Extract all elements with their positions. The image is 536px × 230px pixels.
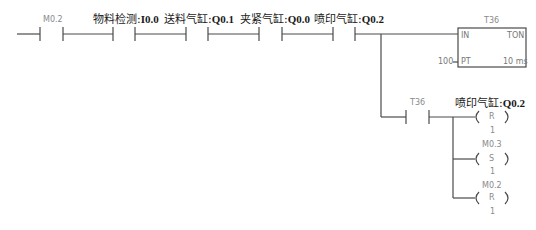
timer-type: TON — [507, 31, 524, 41]
coil-q02-left-paren — [476, 111, 479, 123]
coil-m03-address: M0.3 — [482, 140, 502, 150]
coil-m02-count: 1 — [490, 207, 495, 217]
contact-t36-address: T36 — [410, 98, 425, 108]
contact-q00-label: 夹紧气缸:Q0.0 — [240, 13, 310, 26]
timer-address: T36 — [484, 16, 499, 26]
contact-m02-address: M0.2 — [43, 15, 63, 25]
timer-preset-value: 100 — [438, 57, 453, 67]
contact-q02-address: Q0.2 — [362, 13, 384, 25]
timer-in-pin: IN — [461, 31, 469, 41]
contact-q01-name: 送料气缸 — [164, 13, 208, 26]
contact-i00-label: 物料检测:I0.0 — [93, 13, 159, 26]
ladder-wiring — [0, 0, 536, 230]
coil-m03-count: 1 — [490, 167, 495, 177]
coil-q02-label: 喷印气缸:Q0.2 — [455, 97, 525, 110]
coil-m02-op: R — [489, 193, 495, 203]
contact-i00-address: I0.0 — [141, 13, 159, 25]
contact-q00-name: 夹紧气缸 — [240, 13, 284, 26]
coil-q02-address: Q0.2 — [503, 97, 525, 109]
contact-q01-label: 送料气缸:Q0.1 — [164, 13, 234, 26]
coil-m03-op: S — [489, 154, 494, 164]
contact-q00-address: Q0.0 — [288, 13, 310, 25]
coil-q02-name: 喷印气缸 — [455, 97, 499, 110]
contact-i00-name: 物料检测 — [93, 13, 137, 26]
timer-resolution: 10 ms — [503, 57, 528, 67]
contact-q01-address: Q0.1 — [212, 13, 234, 25]
coil-m02-address: M0.2 — [482, 181, 502, 191]
contact-q02-name: 喷印气缸 — [314, 13, 358, 26]
contact-q02-label: 喷印气缸:Q0.2 — [314, 13, 384, 26]
coil-q02-count: 1 — [490, 126, 495, 136]
timer-pt-pin: PT — [461, 57, 471, 67]
coil-q02-op: R — [489, 112, 495, 122]
ladder-diagram: M0.2 物料检测:I0.0 送料气缸:Q0.1 夹紧气缸:Q0.0 喷印气缸:… — [0, 0, 536, 230]
